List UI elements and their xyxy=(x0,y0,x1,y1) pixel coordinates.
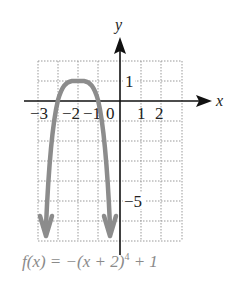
y-tick-label: −5 xyxy=(124,192,142,211)
graph: x y −3 −2 −1 0 1 2 1 −5 xyxy=(0,0,230,283)
x-tick-labels: −3 −2 −1 0 1 2 xyxy=(30,104,164,123)
y-axis-label: y xyxy=(113,16,123,34)
x-tick-label: 1 xyxy=(137,104,146,123)
y-tick-label: 1 xyxy=(125,72,134,91)
equation-lhs: f(x) = −(x + 2) xyxy=(22,252,124,271)
x-tick-label: −3 xyxy=(30,104,48,123)
x-axis-label: x xyxy=(215,92,223,109)
x-tick-label: 0 xyxy=(106,104,115,123)
x-tick-label: 2 xyxy=(155,104,164,123)
x-axis xyxy=(24,95,212,107)
x-tick-label: −2 xyxy=(62,104,80,123)
function-equation: f(x) = −(x + 2)4 + 1 xyxy=(22,251,158,272)
equation-rhs: + 1 xyxy=(129,252,157,271)
